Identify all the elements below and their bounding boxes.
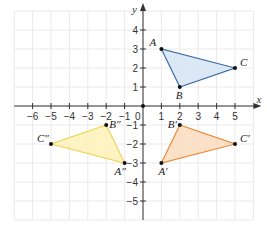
vertex-point xyxy=(49,142,53,146)
vertex-point xyxy=(233,142,237,146)
vertex-point xyxy=(178,123,182,127)
vertex-label: A″ xyxy=(114,165,127,177)
vertex-label: B′ xyxy=(168,118,178,130)
vertex-point xyxy=(233,66,237,70)
vertex-label: C′ xyxy=(240,132,250,144)
coordinate-plane: −6−5−4−3−2−112345−5−4−3−2−112340xyABCA′B… xyxy=(0,0,267,230)
vertex-label: A xyxy=(148,36,156,48)
y-axis-arrow-icon xyxy=(140,3,146,11)
vertex-label: B xyxy=(176,89,183,101)
y-tick-label: 2 xyxy=(132,63,138,74)
y-tick-label: 4 xyxy=(132,25,138,36)
x-tick-label: 5 xyxy=(232,111,238,122)
vertex-label: C″ xyxy=(37,132,49,144)
vertex-label: C xyxy=(240,56,248,68)
origin-point xyxy=(141,104,145,108)
vertex-label: B″ xyxy=(109,118,121,130)
x-tick-label: 4 xyxy=(214,111,220,122)
vertex-label: A′ xyxy=(157,165,168,177)
x-tick-label: −4 xyxy=(64,111,76,122)
x-tick-label: −6 xyxy=(27,111,39,122)
x-tick-label: −3 xyxy=(82,111,94,122)
origin-label: 0 xyxy=(135,111,141,122)
x-tick-label: 2 xyxy=(177,111,183,122)
x-tick-label: −5 xyxy=(45,111,57,122)
y-tick-label: 3 xyxy=(132,44,138,55)
y-tick-label: −5 xyxy=(127,196,139,207)
y-tick-label: −3 xyxy=(127,158,139,169)
x-tick-label: 1 xyxy=(159,111,165,122)
y-axis-label: y xyxy=(131,3,137,15)
y-tick-label: 1 xyxy=(132,82,138,93)
y-tick-label: −4 xyxy=(127,177,139,188)
vertex-point xyxy=(104,123,108,127)
y-tick-label: −2 xyxy=(127,139,139,150)
vertex-point xyxy=(159,47,163,51)
x-tick-label: 3 xyxy=(195,111,201,122)
x-axis-label: x xyxy=(255,93,261,105)
